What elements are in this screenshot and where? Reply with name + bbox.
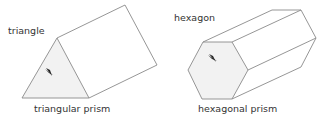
triangle-label: triangle [8, 26, 45, 36]
hexagonal-prism-caption: hexagonal prism [198, 104, 277, 114]
triangular-prism-caption: triangular prism [34, 104, 110, 114]
hexagon-label: hexagon [174, 13, 215, 23]
prism-diagram: triangle triangular prism hexagon hexago… [0, 0, 325, 123]
hexagon-face [188, 42, 248, 99]
hexagonal-prism [188, 10, 316, 99]
triangle-face [22, 38, 89, 98]
triangular-prism [22, 5, 157, 98]
